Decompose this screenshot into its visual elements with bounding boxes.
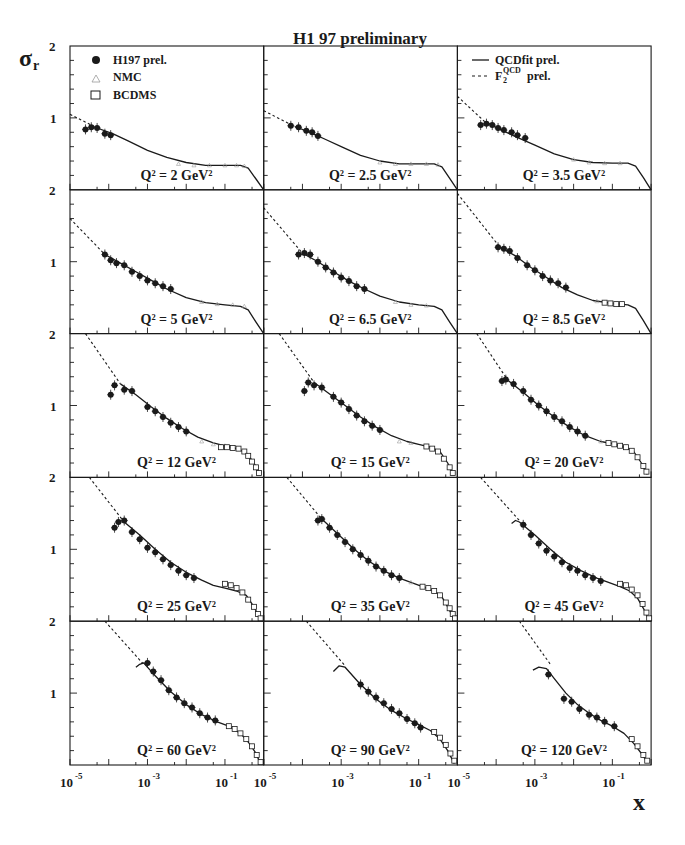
h1-point [183, 572, 189, 578]
h1-point [166, 687, 172, 693]
panel-q2-2_5: Q² = 2.5 GeV² [264, 46, 458, 190]
panel-q2-label: Q² = 60 GeV² [137, 743, 216, 758]
bcdms-point [430, 446, 435, 451]
h1-point [594, 715, 600, 721]
f2qcd-curve [287, 477, 322, 519]
bcdms-point [612, 442, 617, 447]
x-tick-exponent: -3 [152, 771, 160, 781]
h1-point [559, 559, 565, 565]
h1-point [168, 562, 174, 568]
x-tick-exponent: -1 [230, 771, 238, 781]
x-tick-label: 10 [447, 775, 460, 790]
h1-point [361, 286, 367, 292]
h1-point [112, 382, 118, 388]
legend-lines: QCDfit prel. F QCD 2 prel. [472, 53, 559, 85]
chart-figure: H1 97 preliminary σ r x Q² = 2 GeV²Q² = … [0, 0, 685, 845]
bcdms-point [629, 448, 634, 453]
panel-q2-label: Q² = 2.5 GeV² [329, 168, 411, 183]
x-tick-label: 10 [602, 775, 615, 790]
h1-point [296, 252, 302, 258]
h1-point [319, 385, 325, 391]
h1-point [590, 575, 596, 581]
x-tick-label: 10 [331, 775, 344, 790]
f2qcd-curve [105, 621, 144, 664]
h1-point [168, 420, 174, 426]
h1-point [305, 379, 311, 385]
x-tick-exponent: -1 [424, 771, 432, 781]
x-tick-exponent: -3 [346, 771, 354, 781]
h1-point [307, 252, 313, 258]
bcdms-point [230, 445, 235, 450]
panel-q2-5: Q² = 5 GeV² [70, 190, 264, 334]
panel-q2-12: Q² = 12 GeV² [70, 334, 264, 478]
h1-point [315, 133, 321, 139]
chart-canvas: H1 97 preliminary σ r x Q² = 2 GeV²Q² = … [0, 0, 685, 845]
panel-q2-label: Q² = 2 GeV² [141, 168, 213, 183]
f2qcd-curve [89, 477, 124, 522]
panel-grid: Q² = 2 GeV²Q² = 2.5 GeV²Q² = 3.5 GeV²Q² … [70, 46, 652, 765]
panel-q2-label: Q² = 12 GeV² [137, 455, 216, 470]
bcdms-point [432, 589, 437, 594]
h1-point [544, 408, 550, 414]
bcdms-point [647, 616, 652, 621]
h1-point [354, 283, 360, 289]
nmc-point [200, 439, 204, 443]
h1-point [129, 388, 135, 394]
bcdms-point [644, 469, 649, 474]
nmc-point [397, 439, 401, 443]
panel-q2-label: Q² = 90 GeV² [331, 743, 410, 758]
h1-point [181, 700, 187, 706]
panel-q2-label: Q² = 25 GeV² [137, 599, 216, 614]
f2qcd-curve [519, 621, 550, 664]
h1-point [511, 381, 517, 387]
h1-point [330, 269, 336, 275]
h1-point [191, 575, 197, 581]
nmc-triangle-icon [92, 75, 100, 82]
h1-point [137, 536, 143, 542]
panel-q2-label: Q² = 45 GeV² [524, 599, 603, 614]
x-axis-label: x [633, 789, 645, 815]
x-tick-exponent: -1 [617, 771, 625, 781]
bcdms-point [453, 616, 458, 621]
h1-point [358, 552, 364, 558]
h1-point [315, 259, 321, 265]
bcdms-point [240, 590, 245, 595]
y-tick-1: 1 [50, 111, 57, 126]
h1-point [212, 717, 218, 723]
y-tick-1: 1 [50, 399, 57, 414]
h1-point [330, 394, 336, 400]
bcdms-point [437, 593, 442, 598]
x-tick-exponent: -3 [540, 771, 548, 781]
legend-f2-superscript: QCD [503, 66, 521, 75]
y-tick-labels: 2121212121 [49, 39, 57, 701]
bcdms-point [645, 758, 650, 763]
h1-point [520, 388, 526, 394]
h1-point [121, 387, 127, 393]
legend-h1-label: H197 prel. [113, 53, 167, 67]
h1-point [354, 413, 360, 419]
bcdms-point [246, 597, 251, 602]
h1-point [532, 267, 538, 273]
bcdms-point [608, 301, 613, 306]
h1-point [544, 548, 550, 554]
bcdms-point [629, 587, 634, 592]
h1-point [160, 556, 166, 562]
h1-point [175, 424, 181, 430]
legend-f2-label: F [495, 69, 502, 83]
bcdms-point [443, 742, 448, 747]
legend-qcdfit-label: QCDfit prel. [495, 53, 559, 67]
y-axis-title: σ r [19, 45, 39, 73]
h1-point [412, 720, 418, 726]
h1-point [602, 719, 608, 725]
h1-point [197, 710, 203, 716]
legend-nmc-label: NMC [113, 70, 142, 84]
h1-point [137, 273, 143, 279]
h1-point [528, 397, 534, 403]
h1-point [301, 250, 307, 256]
h1-point [563, 285, 569, 291]
h1-point [381, 700, 387, 706]
panel-q2-120: Q² = 120 GeV² [457, 621, 651, 765]
x-tick-label: 10 [254, 775, 267, 790]
panel-q2-label: Q² = 15 GeV² [331, 455, 410, 470]
h1-point [540, 273, 546, 279]
